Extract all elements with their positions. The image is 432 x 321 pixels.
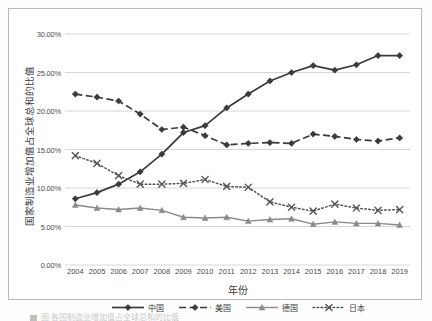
data-point bbox=[72, 91, 78, 97]
y-axis-tick-label: 30.00% bbox=[37, 30, 61, 39]
data-point bbox=[288, 204, 294, 210]
y-axis-tick-label: 5.00% bbox=[41, 222, 61, 231]
x-axis-tick-label: 2009 bbox=[175, 267, 192, 276]
data-point bbox=[375, 138, 381, 144]
figure-caption: 图 各国制造业增加值占全球总和的比值 bbox=[30, 311, 422, 321]
plot-svg bbox=[65, 34, 410, 265]
chart-container: 国家制造业增加值占全球总和的比值 30.00%25.00%20.00%15.00… bbox=[8, 8, 422, 300]
series-3 bbox=[72, 153, 403, 215]
data-point bbox=[94, 190, 100, 196]
caption-text: 图 各国制造业增加值占全球总和的比值 bbox=[41, 313, 179, 321]
data-point bbox=[375, 52, 381, 58]
x-axis-tick-label: 2019 bbox=[391, 267, 408, 276]
x-axis-title: 年份 bbox=[65, 282, 410, 297]
x-axis-tick-label: 2005 bbox=[89, 267, 106, 276]
x-axis-tick-label: 2016 bbox=[326, 267, 343, 276]
data-point bbox=[332, 133, 338, 139]
y-axis-tick-label: 25.00% bbox=[37, 68, 61, 77]
x-axis-tick-label: 2017 bbox=[348, 267, 365, 276]
data-point bbox=[288, 69, 294, 75]
data-point bbox=[353, 62, 359, 68]
data-point bbox=[224, 142, 230, 148]
caption-marker-icon bbox=[30, 315, 37, 321]
series-1 bbox=[72, 91, 403, 148]
data-point bbox=[180, 124, 186, 130]
data-point bbox=[397, 135, 403, 141]
y-axis-tick-label: 0.00% bbox=[41, 261, 61, 270]
data-point bbox=[353, 136, 359, 142]
data-point bbox=[159, 126, 165, 132]
data-point bbox=[310, 62, 316, 68]
x-axis-tick-label: 2010 bbox=[197, 267, 214, 276]
data-point bbox=[115, 173, 121, 179]
x-axis-tick-labels: 2004200520062007200820092010201120122013… bbox=[65, 267, 410, 281]
x-axis-tick-label: 2006 bbox=[110, 267, 127, 276]
screenshot-root: 国家制造业增加值占全球总和的比值 30.00%25.00%20.00%15.00… bbox=[0, 0, 432, 321]
data-point bbox=[245, 184, 251, 190]
x-axis-tick-label: 2013 bbox=[262, 267, 279, 276]
x-axis-tick-label: 2014 bbox=[283, 267, 300, 276]
x-axis-tick-label: 2008 bbox=[153, 267, 170, 276]
data-point bbox=[72, 153, 78, 159]
data-point bbox=[202, 133, 208, 139]
data-point bbox=[397, 52, 403, 58]
x-axis-tick-label: 2011 bbox=[219, 267, 235, 276]
data-point bbox=[288, 140, 294, 146]
x-axis-tick-label: 2004 bbox=[67, 267, 84, 276]
y-axis-tick-label: 10.00% bbox=[37, 184, 61, 193]
x-axis-tick-label: 2018 bbox=[370, 267, 387, 276]
x-axis-tick-label: 2012 bbox=[240, 267, 257, 276]
x-axis-tick-label: 2015 bbox=[305, 267, 322, 276]
data-point bbox=[267, 139, 273, 145]
data-point bbox=[72, 196, 78, 202]
plot-area bbox=[65, 34, 410, 265]
series-2 bbox=[72, 202, 402, 228]
y-axis-tick-label: 20.00% bbox=[37, 107, 61, 116]
series-0 bbox=[72, 52, 403, 201]
y-axis-tick-labels: 30.00%25.00%20.00%15.00%10.00%5.00%0.00% bbox=[17, 34, 63, 265]
data-point bbox=[159, 181, 165, 187]
x-axis-tick-label: 2007 bbox=[132, 267, 149, 276]
data-point bbox=[94, 94, 100, 100]
data-point bbox=[310, 131, 316, 137]
y-axis-tick-label: 15.00% bbox=[37, 145, 61, 154]
data-point bbox=[245, 140, 251, 146]
